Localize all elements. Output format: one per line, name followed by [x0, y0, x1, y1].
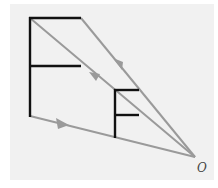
object-f-large	[29, 17, 81, 117]
projection-rays	[30, 18, 195, 157]
diagram-canvas: O	[0, 0, 218, 188]
arrow-icon	[89, 72, 100, 81]
arrow-icon	[56, 118, 69, 129]
arrow-icon	[113, 58, 123, 70]
enlargement-diagram: O	[0, 0, 218, 188]
center-label: O	[197, 161, 207, 175]
image-f-small	[114, 89, 139, 138]
ray-top-right	[81, 18, 195, 157]
